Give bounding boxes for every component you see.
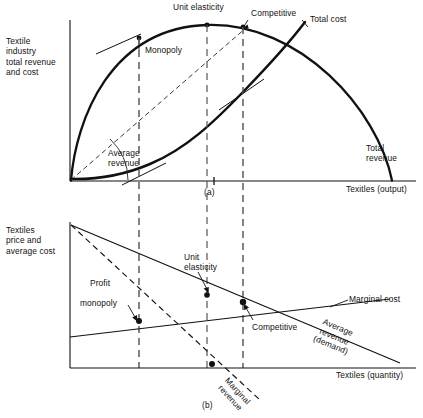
economics-figure: Textile industry total revenue and cost … [0, 0, 423, 418]
panel-b-label-unit-elasticity: Unit elasticity [184, 252, 232, 273]
panel-a-label-total-cost: Total cost [310, 14, 346, 24]
panel-a-label-competitive: Competitive [251, 8, 296, 18]
panel-b-point-competitive [240, 299, 246, 305]
leader-monopoly-b-arrowhead [132, 315, 137, 321]
panel-b-x-axis-label: Textiles (quantity) [336, 370, 403, 380]
panel-b-y-axis-label: Textiles price and average cost [6, 225, 68, 256]
total-cost-curve [71, 22, 305, 179]
leader-marginal-cost-b [330, 300, 348, 307]
panel-b-label-profit: Profit [90, 278, 110, 288]
panel-b-label-monopoly: monopoly [80, 298, 117, 308]
tangent-monopoly-total-revenue [96, 34, 141, 54]
panel-b-caption: (b) [202, 400, 213, 410]
panel-a-label-total-revenue: Total revenue [366, 143, 412, 164]
panel-a-label-monopoly: Monopoly [145, 45, 182, 55]
tangent-competitive-total-cost [219, 79, 264, 110]
panel-b-point-unit-elasticity [204, 292, 210, 298]
panel-a-y-axis-label: Textile industry total revenue and cost [6, 36, 68, 78]
connector-lines-group [139, 25, 243, 368]
panel-a-label-average-revenue: Average revenue [108, 148, 164, 169]
panel-b-point-marginal-revenue-intercept [209, 361, 215, 367]
panel-a-caption: (a) [204, 187, 215, 197]
panel-b-label-marginal-cost: Marginal cost [349, 294, 400, 304]
panel-b-label-competitive: Competitive [252, 322, 297, 332]
panel-a-x-axis-label: Texitles (output) [346, 184, 407, 194]
panel-a-label-unit-elasticity: Unit elasticity [173, 2, 224, 12]
